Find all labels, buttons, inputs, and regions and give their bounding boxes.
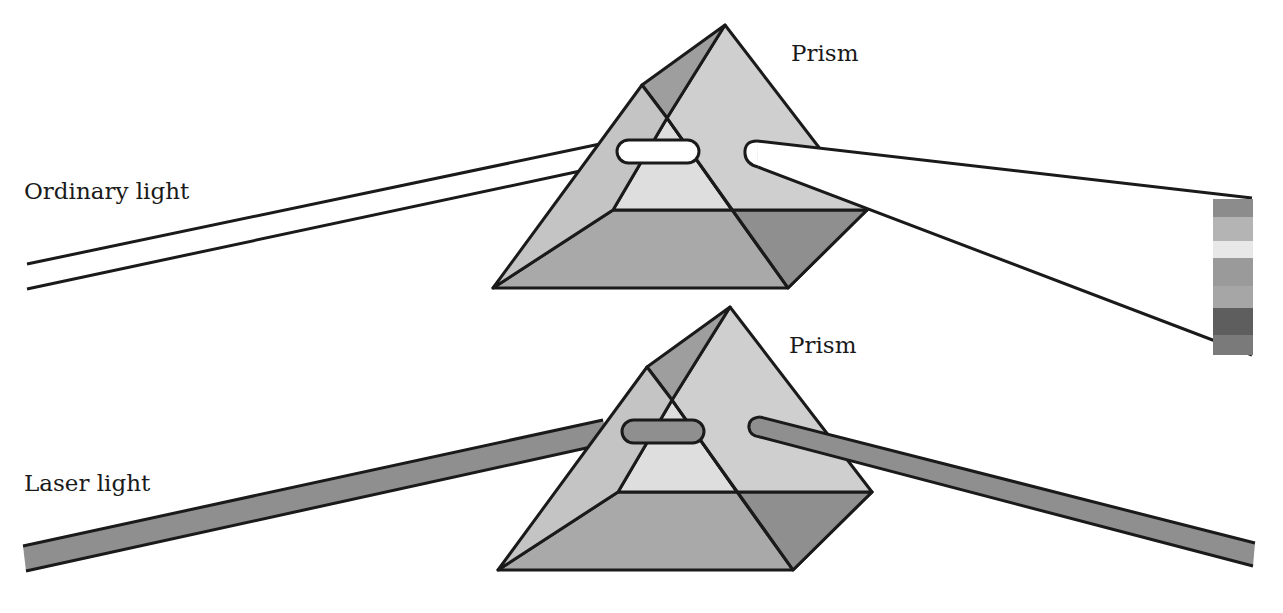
- spectrum-bands: [1213, 199, 1253, 355]
- laser-light-panel: [23, 307, 1255, 571]
- bottom-prism-label: Prism: [789, 332, 856, 358]
- top-prism-label: Prism: [791, 40, 858, 66]
- ordinary-beam-upper-edge: [27, 144, 600, 264]
- ordinary-light-label: Ordinary light: [24, 178, 189, 204]
- laser-light-label: Laser light: [24, 470, 150, 496]
- prism-diagram: Ordinary light Prism Laser light Prism: [0, 0, 1283, 613]
- ordinary-light-panel: [27, 25, 1253, 355]
